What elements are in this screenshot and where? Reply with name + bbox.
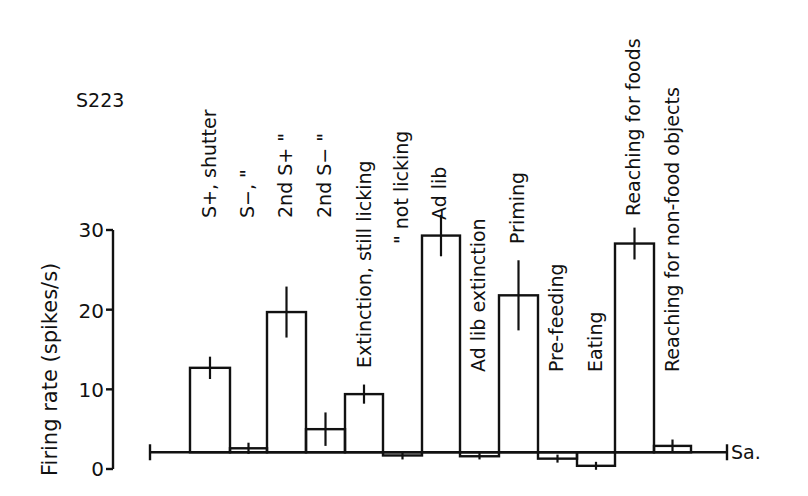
category-label-7: Ad lib extinction	[469, 218, 488, 372]
y-tick-label-0: 0	[64, 459, 104, 479]
category-label-5: " not licking	[392, 131, 411, 244]
spontaneous-activity-label: Sa.	[731, 443, 761, 462]
y-tick-label-30: 30	[64, 220, 104, 240]
y-axis-title: Firing rate (spikes/s)	[40, 263, 61, 476]
category-label-6: Ad lib	[430, 167, 449, 220]
category-label-1: S−, "	[238, 169, 257, 218]
y-tick-label-20: 20	[64, 301, 104, 321]
category-label-3: 2nd S− "	[315, 133, 334, 218]
bar	[190, 368, 230, 452]
category-label-11: Reaching for foods	[624, 38, 643, 216]
cell-id-label: S223	[76, 91, 124, 110]
category-label-10: Eating	[586, 312, 605, 372]
bar	[422, 236, 460, 453]
bar-chart-plot	[0, 0, 808, 496]
category-label-12: Reaching for non-food objects	[663, 87, 682, 372]
category-label-4: Extinction, still licking	[355, 160, 374, 368]
category-label-2: 2nd S+ "	[276, 133, 295, 218]
bar	[615, 244, 654, 453]
chart-figure: S223 Firing rate (spikes/s) 0 10 20 30 S…	[0, 0, 808, 496]
y-tick-label-10: 10	[64, 380, 104, 400]
category-label-0: S+, shutter	[200, 110, 219, 218]
category-label-9: Pre-feeding	[547, 263, 566, 372]
category-label-8: Priming	[508, 172, 527, 244]
